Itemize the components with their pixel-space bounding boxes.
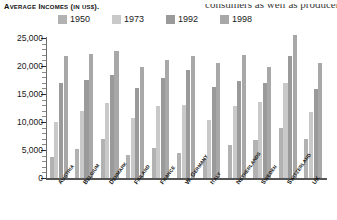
bar: [263, 83, 267, 178]
y-axis-tick-label: 20,000: [17, 61, 43, 71]
bar: [207, 120, 211, 178]
bar: [156, 106, 160, 178]
bar: [126, 155, 130, 178]
figure-title-tail: ).: [94, 2, 99, 11]
bar-group: [152, 38, 170, 178]
y-axis-tick-minor: [42, 49, 46, 50]
bar: [80, 111, 84, 178]
y-axis-tick-minor: [42, 128, 46, 129]
legend-swatch-icon: [112, 15, 121, 24]
legend-swatch-icon: [166, 15, 175, 24]
legend-swatch-icon: [220, 15, 229, 24]
bar: [293, 35, 297, 178]
bar: [309, 112, 313, 178]
bar: [228, 145, 232, 178]
bar: [101, 139, 105, 178]
y-axis-tick-minor: [42, 55, 46, 56]
bar: [283, 83, 287, 178]
figure-title-sc1: VERAGE: [10, 4, 37, 10]
bar: [318, 63, 322, 178]
y-axis-tick-minor: [42, 105, 46, 106]
bar: [212, 87, 216, 178]
bar: [314, 89, 318, 178]
bar: [288, 56, 292, 178]
y-axis-tick-minor: [42, 167, 46, 168]
bar-group: [228, 38, 246, 178]
bar: [267, 67, 271, 178]
y-axis-tick-label: 15,000: [17, 89, 43, 99]
bar: [114, 51, 118, 178]
bar-group: [50, 38, 68, 178]
bar: [135, 88, 139, 178]
legend-swatch-icon: [58, 15, 67, 24]
bar-group: [101, 38, 119, 178]
bar: [75, 149, 79, 178]
bar: [177, 153, 181, 178]
bar: [89, 54, 93, 178]
legend-item: 1950: [58, 15, 90, 24]
bar: [110, 75, 114, 178]
bar: [54, 122, 58, 178]
bar: [191, 56, 195, 178]
bar-group: [126, 38, 144, 178]
y-axis-tick-label: 0: [38, 173, 43, 183]
figure-title: AVERAGE INCOMES (IN US$).: [4, 2, 99, 11]
bar: [152, 148, 156, 178]
bar: [50, 157, 54, 178]
y-axis-tick-minor: [42, 72, 46, 73]
bar: [233, 106, 237, 178]
legend-label: 1992: [178, 15, 198, 24]
plot-area: [47, 38, 327, 178]
bar: [258, 102, 262, 178]
legend-label: 1973: [124, 15, 144, 24]
bar: [186, 70, 190, 178]
bar: [84, 80, 88, 178]
y-axis-tick-minor: [42, 156, 46, 157]
y-axis-tick-label: 5,000: [22, 145, 43, 155]
chart-legend: 1950197319921998: [58, 15, 274, 24]
y-axis-tick-minor: [42, 139, 46, 140]
legend-label: 1950: [70, 15, 90, 24]
y-axis-tick-minor: [42, 83, 46, 84]
bar: [237, 81, 241, 178]
bar: [140, 67, 144, 178]
y-axis-tick-minor: [42, 161, 46, 162]
legend-item: 1973: [112, 15, 144, 24]
bar: [131, 118, 135, 178]
bar: [182, 105, 186, 178]
legend-label: 1998: [232, 15, 252, 24]
bar-group: [75, 38, 93, 178]
figure-title-unit: US$: [82, 4, 94, 10]
y-axis-tick-minor: [42, 77, 46, 78]
bar: [165, 60, 169, 178]
legend-item: 1992: [166, 15, 198, 24]
y-axis-tick-minor: [42, 133, 46, 134]
figure-title-in: IN: [73, 4, 79, 10]
y-axis-tick-minor: [42, 44, 46, 45]
bar: [279, 128, 283, 178]
bar: [161, 78, 165, 178]
y-axis-tick-minor: [42, 111, 46, 112]
bar: [105, 103, 109, 178]
bar-group: [279, 38, 297, 178]
bar-group: [177, 38, 195, 178]
bar: [64, 56, 68, 178]
bar: [59, 83, 63, 178]
y-axis-tick-label: 10,000: [17, 117, 43, 127]
page-bleed-text: consumers as well as producer: [205, 0, 337, 10]
figure-title-sc2: NCOMES: [41, 4, 69, 10]
y-axis-tick-label: 25,000: [17, 33, 43, 43]
bar: [216, 63, 220, 178]
bar: [242, 55, 246, 178]
legend-item: 1998: [220, 15, 252, 24]
y-axis-labels: 25,00020,00015,00010,0005,0000: [0, 38, 43, 180]
y-axis-tick-minor: [42, 100, 46, 101]
